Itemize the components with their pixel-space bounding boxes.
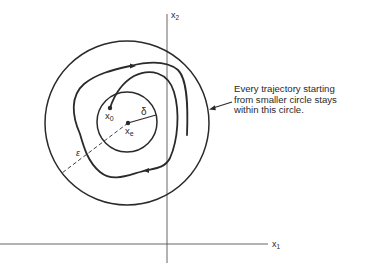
epsilon-radius <box>62 123 128 173</box>
annotation-note: Every trajectory starting from smaller c… <box>234 84 369 116</box>
annotation-pointer-arrowhead <box>209 105 216 110</box>
equilibrium-point-label: xe <box>125 125 134 137</box>
x1-axis-label: x1 <box>272 239 281 250</box>
trajectory-arrow-bottom <box>143 168 149 173</box>
trajectory <box>74 63 188 178</box>
annotation-line: Every trajectory starting <box>234 84 369 95</box>
epsilon-label: ε <box>76 148 81 158</box>
annotation-line: within this circle. <box>234 105 369 116</box>
delta-label: δ <box>141 106 147 117</box>
initial-point-label: x0 <box>105 110 114 122</box>
stability-diagram: x1 x2 δ ε x0 xe <box>0 0 369 273</box>
annotation-pointer <box>213 102 232 108</box>
x2-axis-label: x2 <box>171 10 180 21</box>
